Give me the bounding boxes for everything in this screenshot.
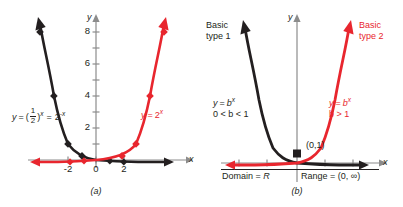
panel-b-equation-red: y=bx b > 1 — [329, 98, 351, 121]
eq-b-red-eq: = — [336, 98, 341, 108]
eq-b-black-lead: y — [213, 98, 218, 108]
eq-a-black-exp1: x — [40, 110, 43, 117]
panel-a-equation-red: y=2x — [141, 110, 163, 121]
eq-a-black-fraction: 12 — [29, 107, 37, 125]
domain-label: Domain = R — [222, 171, 270, 181]
origin-point-marker — [293, 150, 301, 158]
basic-type-2-label: Basic type 2 — [359, 20, 384, 43]
eq-b-black-exp: x — [232, 96, 235, 103]
basic-type-1-line2: type 1 — [206, 31, 231, 41]
domain-label-var: R — [263, 171, 270, 181]
curve-b-red — [225, 20, 354, 170]
eq-b-red-exp: x — [348, 96, 351, 103]
range-label: Range = (0, ∞) — [301, 171, 360, 181]
basic-type-1-line1: Basic — [206, 20, 228, 30]
eq-a-black-eq1: = — [19, 112, 24, 122]
eq-b-black-eq: = — [220, 98, 225, 108]
curve-black-half-power — [35, 17, 174, 167]
domain-label-text: Domain = — [222, 171, 263, 181]
panel-a-xtick-minus2: -2 — [58, 163, 78, 174]
eq-a-black-lead: y — [12, 112, 17, 122]
panel-a-ytick-2: 2 — [70, 121, 90, 132]
panel-a-plot — [0, 0, 201, 207]
panel-a-ytick-4: 4 — [70, 89, 90, 100]
eq-a-black-eq2: = — [46, 112, 51, 122]
curve-b-black — [240, 20, 369, 170]
eq-b-black-constraint: 0 < b < 1 — [213, 109, 249, 119]
panel-b-x-axis-label: x — [383, 157, 388, 167]
eq-a-black-frac-den: 2 — [30, 117, 36, 126]
panel-a-ytick-8: 8 — [70, 25, 90, 36]
panel-a-xtick-2: 2 — [114, 163, 134, 174]
panel-b-caption: (b) — [267, 186, 327, 196]
panel-a-x-axis-label: x — [189, 154, 194, 164]
panel-b-equation-black: y=bx 0 < b < 1 — [213, 98, 249, 121]
panel-a-xtick-0: 0 — [86, 163, 106, 174]
eq-a-red-eq: = — [148, 110, 153, 120]
panel-a-y-axis-label: y — [87, 12, 92, 22]
eq-b-red-lead: y — [329, 98, 334, 108]
eq-a-red-exp: x — [160, 108, 163, 115]
basic-type-2-line2: type 2 — [359, 31, 384, 41]
panel-a: x y -2 0 2 2 4 6 8 y=(12)x=2-x y=2x (a) — [0, 0, 201, 207]
panel-a-equation-black: y=(12)x=2-x — [12, 107, 65, 125]
eq-a-red-lead: y — [141, 110, 146, 120]
eq-b-red-constraint: b > 1 — [329, 109, 349, 119]
panel-b-y-axis-label: y — [288, 12, 293, 22]
basic-type-1-label: Basic type 1 — [206, 20, 231, 43]
exponential-functions-figure: x y -2 0 2 2 4 6 8 y=(12)x=2-x y=2x (a) — [0, 0, 403, 207]
eq-a-black-exp2: -x — [60, 110, 65, 117]
panel-a-ytick-6: 6 — [70, 57, 90, 68]
panel-a-y-axis — [92, 14, 99, 168]
point-0-1-label: (0,1) — [306, 140, 325, 151]
panel-a-caption: (a) — [66, 186, 126, 196]
basic-type-2-line1: Basic — [359, 20, 381, 30]
panel-b: x y Basic type 1 Basic type 2 y=bx 0 < b… — [201, 0, 403, 207]
